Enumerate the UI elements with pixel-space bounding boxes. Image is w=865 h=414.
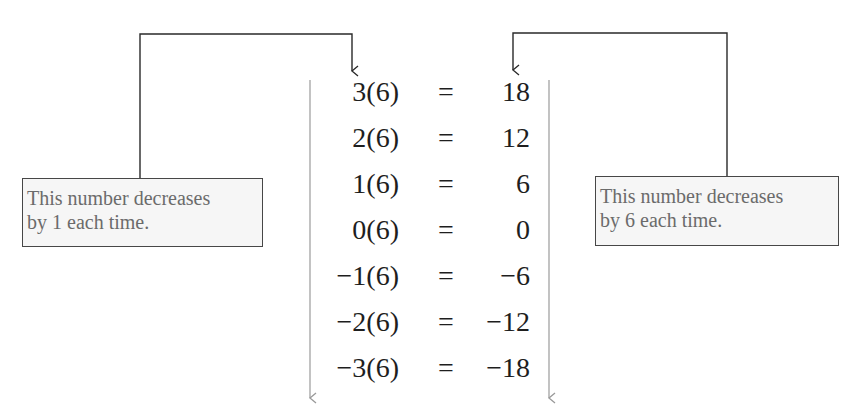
- equation-lhs: −1(6): [337, 256, 399, 296]
- equation-rhs: 0: [516, 210, 530, 250]
- equals-sign: =: [434, 256, 458, 296]
- equation-row: −3(6) = −18: [0, 348, 865, 388]
- equation-rhs: −12: [486, 302, 530, 342]
- equals-sign: =: [434, 348, 458, 388]
- equation-rhs: 12: [502, 118, 530, 158]
- equals-sign: =: [434, 118, 458, 158]
- equation-lhs: 1(6): [352, 164, 399, 204]
- equation-rhs: −6: [500, 256, 530, 296]
- equals-sign: =: [434, 72, 458, 112]
- equals-sign: =: [434, 302, 458, 342]
- equals-sign: =: [434, 164, 458, 204]
- equation-row: 0(6) = 0: [0, 210, 865, 250]
- diagram-canvas: This number decreases by 1 each time. Th…: [0, 0, 865, 414]
- equation-lhs: 2(6): [352, 118, 399, 158]
- equation-row: 2(6) = 12: [0, 118, 865, 158]
- equation-row: 3(6) = 18: [0, 72, 865, 112]
- equation-row: 1(6) = 6: [0, 164, 865, 204]
- equation-lhs: −2(6): [337, 302, 399, 342]
- equation-rhs: 18: [502, 72, 530, 112]
- equation-lhs: −3(6): [337, 348, 399, 388]
- equation-lhs: 3(6): [352, 72, 399, 112]
- equals-sign: =: [434, 210, 458, 250]
- equation-rhs: −18: [486, 348, 530, 388]
- equation-lhs: 0(6): [352, 210, 399, 250]
- equation-row: −2(6) = −12: [0, 302, 865, 342]
- equation-rhs: 6: [516, 164, 530, 204]
- equation-row: −1(6) = −6: [0, 256, 865, 296]
